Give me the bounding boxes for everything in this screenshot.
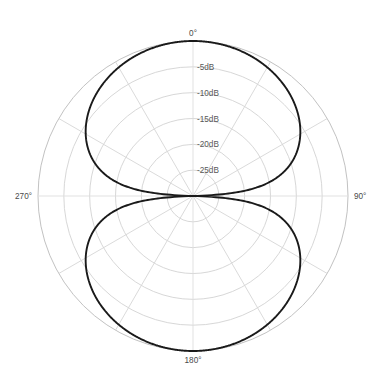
angular-gridline-330 xyxy=(116,62,194,196)
angular-gridline-300 xyxy=(59,119,193,197)
polar-plot-svg: 0° 90° 180° 270° -5dB -10dB -15dB -20dB … xyxy=(0,0,386,392)
angular-gridline-150 xyxy=(193,196,271,330)
radial-label-minus5db: -5dB xyxy=(197,63,215,72)
angle-label-90: 90° xyxy=(354,192,366,201)
angle-label-270: 270° xyxy=(15,192,32,201)
polar-chart-container: 0° 90° 180° 270° -5dB -10dB -15dB -20dB … xyxy=(0,0,386,392)
angular-gridline-240 xyxy=(59,196,193,274)
angular-gridline-120 xyxy=(193,196,327,274)
radial-tick-labels-group: -5dB -10dB -15dB -20dB -25dB xyxy=(197,63,219,175)
angular-gridline-30 xyxy=(193,62,271,196)
angular-gridline-60 xyxy=(193,119,327,197)
angle-label-0: 0° xyxy=(189,29,197,38)
angle-label-180: 180° xyxy=(185,356,202,365)
angular-gridline-210 xyxy=(116,196,194,330)
radial-label-minus25db: -25dB xyxy=(197,166,219,175)
radial-label-minus10db: -10dB xyxy=(197,89,219,98)
radial-label-minus15db: -15dB xyxy=(197,115,219,124)
radial-label-minus20db: -20dB xyxy=(197,140,219,149)
